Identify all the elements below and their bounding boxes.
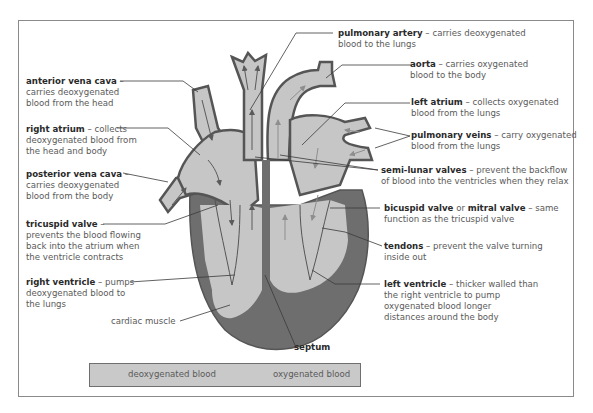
desc-line: the ventricle contracts — [26, 252, 123, 262]
desc-line: function as the tricuspid valve — [384, 214, 514, 224]
label-left-ventricle: left ventricle – thicker walled than the… — [384, 279, 538, 323]
label-tendons: tendons – prevent the valve turning insi… — [384, 241, 543, 263]
desc-line: – carry oxygenated — [491, 130, 576, 140]
desc-line: – carries oxygenated — [436, 59, 528, 69]
label-pulmonary-veins: pulmonary veins – carry oxygenated blood… — [411, 130, 577, 152]
label-anterior-vena-cava: anterior vena cava – carries deoxygenate… — [26, 76, 124, 109]
term-tricuspid-valve: tricuspid valve — [26, 219, 98, 229]
term-bicuspid-valve: bicuspid valve — [384, 203, 453, 213]
desc-line: – prevent the valve turning — [423, 241, 542, 251]
desc-line: the lungs — [26, 299, 66, 309]
desc-line: of blood into the ventricles when they r… — [381, 176, 569, 186]
desc-line: – pumps — [95, 277, 134, 287]
desc-line: prevents the blood flowing — [26, 230, 141, 240]
label-posterior-vena-cava: posterior vena cava – carries deoxygenat… — [26, 169, 129, 202]
term-left-atrium: left atrium — [411, 97, 463, 107]
desc-line: – prevent the backflow — [467, 165, 568, 175]
desc-line: – — [117, 76, 124, 86]
desc-line: – — [98, 219, 105, 229]
legend: deoxygenated blood oxygenated blood — [89, 363, 361, 387]
desc-line: – carries deoxygenated — [423, 28, 526, 38]
label-left-atrium: left atrium – collects oxygenated blood … — [411, 97, 559, 119]
label-bicuspid-valve: bicuspid valve or mitral valve – same fu… — [384, 203, 559, 225]
term-right-atrium: right atrium — [26, 124, 85, 134]
desc-line: – collects oxygenated — [463, 97, 559, 107]
term-pulmonary-veins: pulmonary veins — [411, 130, 491, 140]
desc-line: back into the atrium when — [26, 241, 140, 251]
label-semi-lunar-valves: semi-lunar valves – prevent the backflow… — [381, 165, 569, 187]
desc-line: blood from the lungs — [411, 141, 500, 151]
desc-line: – — [122, 169, 129, 179]
leader-aorta — [326, 65, 412, 78]
term-posterior-vena-cava: posterior vena cava — [26, 169, 122, 179]
desc-line: – thicker walled than — [446, 279, 538, 289]
desc-line: blood from the head — [26, 98, 114, 108]
desc-line: the head and body — [26, 146, 107, 156]
desc-line: deoxygenated blood to — [26, 288, 125, 298]
leader-posterior-vena-cava — [123, 173, 168, 182]
term-pulmonary-artery: pulmonary artery — [338, 28, 423, 38]
desc-line: blood from the body — [26, 191, 113, 201]
term-septum: septum — [294, 342, 330, 352]
term-semi-lunar-valves: semi-lunar valves — [381, 165, 467, 175]
desc-line: the right ventricle to pump — [384, 290, 500, 300]
term-mitral-valve: mitral valve — [468, 203, 526, 213]
leader-anterior-vena-cava — [120, 81, 198, 92]
desc-line: blood to the body — [410, 70, 486, 80]
cardiac-muscle-text: cardiac muscle — [111, 316, 176, 326]
label-tricuspid-valve: tricuspid valve – prevents the blood flo… — [26, 219, 141, 263]
label-right-ventricle: right ventricle – pumps deoxygenated blo… — [26, 277, 134, 310]
term-aorta: aorta — [410, 59, 436, 69]
desc-line: – same — [525, 203, 558, 213]
term-left-ventricle: left ventricle — [384, 279, 446, 289]
label-aorta: aorta – carries oxygenated blood to the … — [410, 59, 528, 81]
desc-line: blood from the lungs — [411, 108, 500, 118]
label-right-atrium: right atrium – collects deoxygenated blo… — [26, 124, 137, 157]
left-atrium — [290, 115, 372, 195]
label-septum: septum — [294, 342, 330, 353]
desc-line: distances around the body — [384, 312, 499, 322]
legend-deoxygenated-label: deoxygenated blood — [128, 369, 216, 379]
desc-line: carries deoxygenated — [26, 180, 119, 190]
label-cardiac-muscle: cardiac muscle — [111, 316, 176, 327]
desc-line: inside out — [384, 252, 426, 262]
desc-line: carries deoxygenated — [26, 87, 119, 97]
leader-pulmonary-veins-1 — [375, 128, 410, 136]
desc-line: oxygenated blood longer — [384, 301, 491, 311]
desc-line: blood to the lungs — [338, 39, 416, 49]
term-right-ventricle: right ventricle — [26, 277, 95, 287]
conjunction: or — [453, 203, 467, 213]
septum — [262, 160, 270, 330]
term-tendons: tendons — [384, 241, 423, 251]
desc-line: – collects — [85, 124, 127, 134]
leader-pulmonary-veins-2 — [375, 136, 410, 148]
label-pulmonary-artery: pulmonary artery – carries deoxygenated … — [338, 28, 526, 50]
term-anterior-vena-cava: anterior vena cava — [26, 76, 117, 86]
desc-line: deoxygenated blood from — [26, 135, 137, 145]
legend-oxygenated-label: oxygenated blood — [273, 369, 350, 379]
